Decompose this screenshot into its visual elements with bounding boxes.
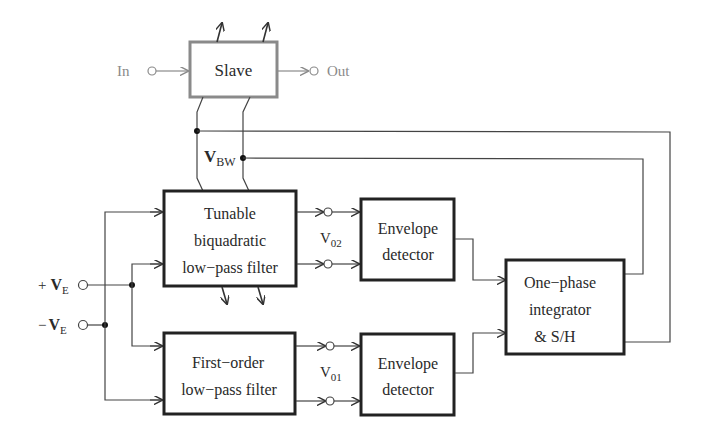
envelope-bottom-label: Envelope <box>378 355 438 373</box>
envelope-top-label: detector <box>382 246 434 263</box>
tunable-filter-label: biquadratic <box>194 232 266 250</box>
in-label: In <box>117 63 130 79</box>
envelope-top-label: Envelope <box>378 220 438 238</box>
v02-label: V02 <box>320 230 342 249</box>
plus-distribution-wire <box>132 264 161 346</box>
first-order-filter-box <box>164 333 295 414</box>
integrator-label: One−phase <box>524 274 596 292</box>
minus-distribution-wire <box>105 212 161 400</box>
envelope-detector-bottom-box <box>361 334 454 415</box>
tunable-filter-label: Tunable <box>204 205 256 222</box>
plus-ve-label: +VE <box>38 276 69 296</box>
terminal-icon <box>324 260 332 268</box>
minus-ve-label: −VE <box>38 316 67 336</box>
v01-label: V01 <box>320 364 342 383</box>
first-order-filter-block: First−order low−pass filter <box>164 333 295 414</box>
out-label: Out <box>327 63 350 79</box>
plus-ve-terminal-icon <box>79 281 88 290</box>
terminal-icon <box>326 342 334 350</box>
bus-line-right <box>243 97 250 191</box>
slave-block: In Slave Out <box>117 23 350 97</box>
vbw-label: VBW <box>204 147 236 169</box>
envelope-detector-top-block: Envelope detector <box>361 199 454 280</box>
tunable-down-arrow-icon <box>258 287 263 304</box>
envelope-bottom-label: detector <box>382 381 434 398</box>
integrator-sh-block: One−phase integrator & S/H <box>506 260 624 354</box>
master-slave-block-diagram: In Slave Out VBW +VE −VE <box>0 0 706 447</box>
tunable-biquad-filter-block: Tunable biquadratic low−pass filter <box>164 191 296 304</box>
envelope-top-to-integrator-wire <box>455 239 505 280</box>
slave-up-arrow-icon <box>217 23 222 42</box>
v02-connection: V02 <box>297 208 359 268</box>
in-terminal-icon <box>148 67 156 75</box>
tunable-filter-label: low−pass filter <box>182 259 278 277</box>
slave-up-arrow-icon <box>263 23 268 42</box>
tunable-down-arrow-icon <box>222 287 227 304</box>
integrator-label: integrator <box>529 301 592 319</box>
minus-ve-terminal-icon <box>79 321 88 330</box>
terminal-icon <box>326 397 334 405</box>
terminal-icon <box>324 208 332 216</box>
first-order-filter-label: low−pass filter <box>181 381 277 399</box>
first-order-filter-label: First−order <box>192 354 265 371</box>
inputs: +VE −VE <box>38 212 162 400</box>
out-terminal-icon <box>310 67 318 75</box>
envelope-bottom-to-integrator-wire <box>455 333 505 373</box>
envelope-detector-bottom-block: Envelope detector <box>361 334 454 415</box>
integrator-label: & S/H <box>534 328 576 345</box>
slave-label: Slave <box>215 61 253 80</box>
envelope-detector-top-box <box>361 199 454 280</box>
v01-connection: V01 <box>296 342 359 405</box>
bus-line-left <box>197 97 203 191</box>
